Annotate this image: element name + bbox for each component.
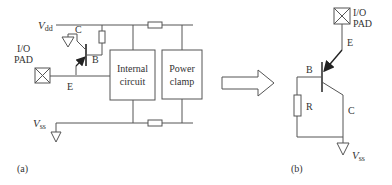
io-pad-icon-b bbox=[334, 8, 350, 24]
ground-icon-b bbox=[337, 143, 349, 155]
pad-label-a-1: I/O bbox=[17, 43, 30, 54]
power-clamp-label-2: clamp bbox=[170, 76, 194, 87]
base-label-a: B bbox=[92, 54, 99, 65]
emitter-arrow-b bbox=[325, 50, 342, 70]
panel-b-label: (b) bbox=[291, 163, 303, 175]
internal-circuit-block bbox=[110, 50, 155, 100]
collector-ground-icon bbox=[62, 37, 74, 47]
panel-b: I/O PAD E B R C Vss (b) bbox=[291, 7, 372, 175]
emitter-label-b: E bbox=[347, 37, 353, 48]
internal-circuit-label-1: Internal bbox=[117, 63, 148, 74]
pad-label-b-1: I/O bbox=[353, 7, 366, 18]
vss-rail-resistor bbox=[148, 120, 162, 126]
pad-label-b-2: PAD bbox=[353, 18, 372, 29]
resistor-label-b: R bbox=[306, 101, 313, 112]
internal-circuit-label-2: circuit bbox=[120, 76, 146, 87]
vdd-label: Vdd bbox=[38, 19, 53, 33]
base-label-b: B bbox=[306, 64, 313, 75]
power-clamp-block bbox=[162, 50, 202, 99]
collector-label-b: C bbox=[348, 105, 355, 116]
vss-label-b: Vss bbox=[352, 149, 365, 163]
pad-label-a-2: PAD bbox=[14, 54, 33, 65]
panel-a: Vdd Vss I/O PAD E bbox=[14, 19, 202, 175]
io-pad-icon bbox=[35, 68, 50, 83]
collector-diagonal-b bbox=[322, 82, 343, 95]
transform-arrow-icon bbox=[222, 70, 274, 96]
vdd-rail-resistor bbox=[148, 22, 162, 28]
panel-a-label: (a) bbox=[17, 163, 28, 175]
ground-icon bbox=[51, 132, 61, 142]
esd-diagram: Vdd Vss I/O PAD E bbox=[0, 0, 392, 185]
power-clamp-label-1: Power bbox=[169, 63, 195, 74]
base-resistor bbox=[294, 95, 301, 116]
parasitic-bjt-icon bbox=[62, 25, 105, 75]
vss-label: Vss bbox=[33, 117, 46, 131]
collector-label-a: C bbox=[75, 24, 82, 35]
emitter-label-a: E bbox=[67, 81, 73, 92]
